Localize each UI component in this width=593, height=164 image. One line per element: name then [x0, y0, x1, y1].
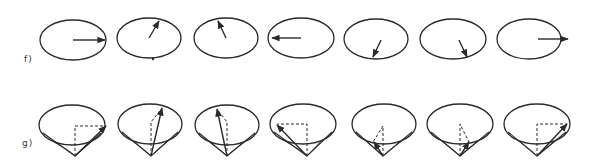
ellipse-outline: [420, 19, 486, 59]
ellipse-item: [344, 19, 408, 59]
ellipse-item: [497, 19, 568, 59]
dot-marker: [152, 58, 154, 60]
cone-rim: [352, 104, 416, 144]
ellipse-item: [420, 19, 486, 59]
vector-arrow-icon: [149, 21, 159, 38]
precession-diagram: [0, 0, 593, 164]
cone-item: [352, 104, 416, 156]
cone-rim: [39, 105, 105, 145]
vector-arrow-icon: [459, 40, 467, 57]
vector-arrow-icon: [373, 40, 381, 57]
row-g-cones: [39, 104, 570, 156]
row-f-ellipses: [40, 18, 568, 60]
cone-item: [39, 105, 106, 156]
cone-item: [270, 104, 336, 156]
ellipse-item: [268, 18, 334, 58]
ellipse-item: [117, 18, 181, 60]
precession-vector-arrow-icon: [277, 125, 307, 156]
vector-arrow-icon: [218, 21, 226, 38]
dashed-projection: [460, 124, 469, 156]
precession-vector-arrow-icon: [537, 124, 567, 156]
cone-item: [195, 105, 259, 156]
precession-vector-arrow-icon: [75, 126, 106, 156]
cone-rim: [118, 104, 182, 144]
cone-item: [427, 104, 493, 156]
cone-item: [118, 104, 182, 156]
ellipse-item: [194, 18, 258, 58]
ellipse-outline: [344, 19, 408, 59]
ellipse-item: [40, 20, 106, 60]
cone-item: [504, 104, 570, 156]
